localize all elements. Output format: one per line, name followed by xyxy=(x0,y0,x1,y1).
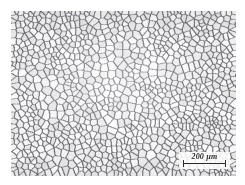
micrograph-figure: 200 µm xyxy=(0,0,245,185)
scale-bar-line xyxy=(183,163,226,164)
scale-bar-label: 200 µm xyxy=(179,152,230,162)
scale-bar: 200 µm xyxy=(179,152,230,169)
scale-bar-tick-left xyxy=(183,160,184,167)
scale-bar-tick-right xyxy=(225,160,226,167)
